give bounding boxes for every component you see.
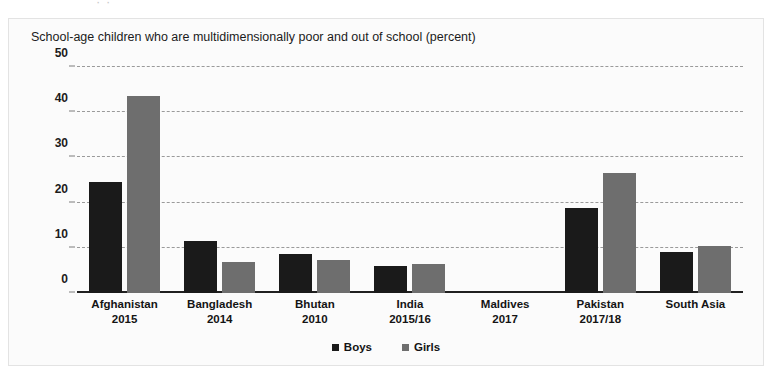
- x-axis-label-country: South Asia: [666, 298, 726, 310]
- x-axis-label: Pakistan2017/18: [553, 297, 648, 327]
- x-axis-label: South Asia: [648, 297, 743, 327]
- bar-girls[interactable]: [222, 262, 255, 293]
- bar-group: [267, 67, 362, 293]
- x-axis-label-year: 2015/16: [362, 312, 457, 327]
- x-axis-label-country: Bhutan: [295, 298, 335, 310]
- bar-girls[interactable]: [603, 173, 636, 293]
- y-axis-tick-label: 30: [55, 136, 68, 150]
- x-axis-label: India2015/16: [362, 297, 457, 327]
- bar-group: [172, 67, 267, 293]
- bar-girls[interactable]: [127, 96, 160, 293]
- y-axis-tick-label: 10: [55, 227, 68, 241]
- y-axis-tick-label: 0: [61, 272, 68, 286]
- bar-group: [648, 67, 743, 293]
- y-axis-tick-label: 20: [55, 182, 68, 196]
- chart-title: School-age children who are multidimensi…: [31, 30, 476, 44]
- legend-label: Girls: [414, 341, 440, 353]
- x-axis-label-country: Bangladesh: [187, 298, 252, 310]
- x-axis-label-country: India: [397, 298, 424, 310]
- y-axis-tick-label: 40: [55, 91, 68, 105]
- x-axis-label: Afghanistan2015: [77, 297, 172, 327]
- bar-girls[interactable]: [698, 246, 731, 293]
- plot-area: 01020304050: [77, 67, 743, 293]
- bar-girls[interactable]: [317, 260, 350, 293]
- x-axis-label-year: 2017/18: [553, 312, 648, 327]
- x-axis-label-year: 2017: [458, 312, 553, 327]
- x-axis-label: Maldives2017: [458, 297, 553, 327]
- bar-group: [458, 67, 553, 293]
- bar-groups: [77, 67, 743, 293]
- legend-label: Boys: [344, 341, 372, 353]
- y-tick-mark: [69, 111, 75, 112]
- x-axis-label: Bangladesh2014: [172, 297, 267, 327]
- bar-boys[interactable]: [184, 241, 217, 293]
- x-axis-label-country: Maldives: [481, 298, 530, 310]
- legend-swatch-icon: [332, 344, 339, 351]
- chart-figure: School-age children who are multidimensi…: [8, 18, 764, 366]
- bar-group: [77, 67, 172, 293]
- bar-boys[interactable]: [89, 182, 122, 293]
- y-tick-mark: [69, 292, 75, 293]
- y-tick-mark: [69, 156, 75, 157]
- legend-swatch-icon: [402, 344, 409, 351]
- y-tick-mark: [69, 201, 75, 202]
- y-tick-mark: [69, 246, 75, 247]
- bar-group: [362, 67, 457, 293]
- bar-boys[interactable]: [374, 266, 407, 293]
- page-bleed-text: · ·: [96, 0, 336, 8]
- x-axis-labels: Afghanistan2015Bangladesh2014Bhutan2010I…: [77, 297, 743, 327]
- x-axis-label-year: 2010: [267, 312, 362, 327]
- chart-legend: BoysGirls: [9, 341, 763, 353]
- legend-item-girls[interactable]: Girls: [402, 341, 440, 353]
- x-axis-label: Bhutan2010: [267, 297, 362, 327]
- x-axis-label-year: 2015: [77, 312, 172, 327]
- bar-girls[interactable]: [412, 264, 445, 293]
- x-axis-label-country: Pakistan: [577, 298, 624, 310]
- bar-boys[interactable]: [660, 252, 693, 293]
- bar-group: [553, 67, 648, 293]
- bar-boys[interactable]: [279, 254, 312, 293]
- x-axis-label-year: 2014: [172, 312, 267, 327]
- bar-boys[interactable]: [565, 208, 598, 293]
- legend-item-boys[interactable]: Boys: [332, 341, 372, 353]
- x-axis-label-country: Afghanistan: [91, 298, 157, 310]
- y-axis-tick-label: 50: [55, 46, 68, 60]
- y-tick-mark: [69, 66, 75, 67]
